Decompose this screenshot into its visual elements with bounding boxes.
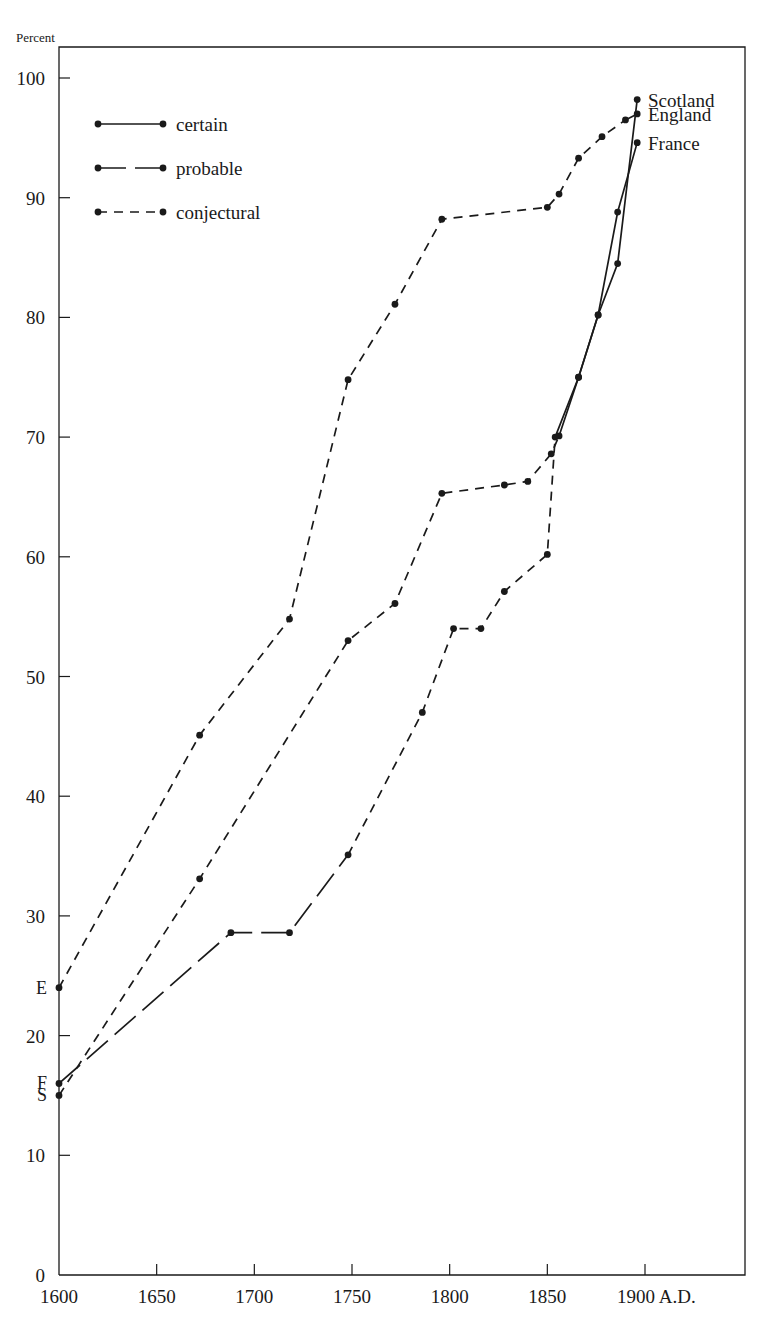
data-point: [552, 434, 559, 441]
chart-figure: Percent 01020304050607080901001600165017…: [0, 0, 777, 1333]
data-point: [56, 1080, 63, 1087]
series-segment-conjectural: [348, 437, 555, 855]
y-tick-label: 60: [26, 547, 45, 568]
series-group: [56, 96, 641, 1099]
y-tick-label: 90: [26, 188, 45, 209]
data-point: [450, 625, 457, 632]
legend: certainprobableconjectural: [95, 114, 261, 223]
series-end-label-france: France: [648, 133, 700, 154]
data-point: [544, 551, 551, 558]
series-scotland: [56, 96, 641, 1099]
legend-marker: [95, 165, 102, 172]
data-point: [556, 191, 563, 198]
data-point: [501, 588, 508, 595]
legend-item-probable: probable: [95, 158, 243, 179]
legend-label: conjectural: [176, 202, 260, 223]
x-tick-label: 1650: [138, 1286, 176, 1307]
data-point: [345, 376, 352, 383]
legend-marker: [160, 165, 167, 172]
y-axis-unit-label: Percent: [16, 30, 55, 46]
data-point: [614, 260, 621, 267]
data-point: [196, 732, 203, 739]
y-tick-label: 70: [26, 427, 45, 448]
series-end-labels: ScotlandEnglandFrance: [648, 90, 715, 154]
y-tick-label: 50: [26, 667, 45, 688]
series-england: [56, 111, 641, 992]
data-point: [56, 984, 63, 991]
data-point: [599, 133, 606, 140]
legend-label: certain: [176, 114, 228, 135]
y-tick-label: 40: [26, 786, 45, 807]
data-point: [286, 616, 293, 623]
y-tick-label: 20: [26, 1026, 45, 1047]
plot-frame: [59, 47, 745, 1275]
legend-item-certain: certain: [95, 114, 229, 135]
series-segment-conjectural: [59, 120, 625, 988]
data-point: [419, 709, 426, 716]
start-label-england: E: [36, 978, 47, 998]
x-tick-label: 1700: [235, 1286, 273, 1307]
series-end-label-england: England: [648, 104, 712, 125]
data-point: [345, 637, 352, 644]
y-tick-label: 80: [26, 307, 45, 328]
data-point: [438, 490, 445, 497]
x-tick-label: 1800: [431, 1286, 469, 1307]
y-tick-label: 30: [26, 906, 45, 927]
legend-marker: [160, 209, 167, 216]
data-point: [196, 875, 203, 882]
legend-marker: [95, 209, 102, 216]
data-point: [575, 374, 582, 381]
data-point: [478, 625, 485, 632]
series-segment-certain: [559, 100, 637, 436]
legend-label: probable: [176, 158, 242, 179]
y-tick-label: 100: [17, 68, 46, 89]
legend-item-conjectural: conjectural: [95, 202, 261, 223]
chart-svg: 0102030405060708090100160016501700175018…: [0, 0, 777, 1333]
series-segment-probable: [59, 855, 348, 1084]
x-tick-label: 1900 A.D.: [617, 1286, 696, 1307]
data-point: [622, 116, 629, 123]
data-point: [544, 204, 551, 211]
start-label-scotland: S: [37, 1085, 47, 1105]
y-tick-label: 0: [36, 1265, 46, 1286]
data-point: [595, 312, 602, 319]
data-point: [438, 216, 445, 223]
data-point: [524, 478, 531, 485]
data-point: [392, 600, 399, 607]
legend-marker: [160, 121, 167, 128]
series-segment-certain: [555, 143, 637, 437]
data-point: [634, 139, 641, 146]
x-tick-label: 1600: [40, 1286, 78, 1307]
data-point: [634, 96, 641, 103]
x-tick-label: 1750: [333, 1286, 371, 1307]
series-segment-conjectural: [59, 436, 559, 1096]
data-point: [286, 929, 293, 936]
series-france: [56, 139, 641, 1087]
y-tick-label: 10: [26, 1145, 45, 1166]
data-point: [345, 851, 352, 858]
x-axis: 1600165017001750180018501900 A.D.: [40, 1264, 696, 1307]
data-point: [227, 929, 234, 936]
data-point: [501, 482, 508, 489]
x-tick-label: 1850: [528, 1286, 566, 1307]
data-point: [56, 1092, 63, 1099]
data-point: [392, 301, 399, 308]
data-point: [614, 209, 621, 216]
data-point: [575, 155, 582, 162]
legend-marker: [95, 121, 102, 128]
